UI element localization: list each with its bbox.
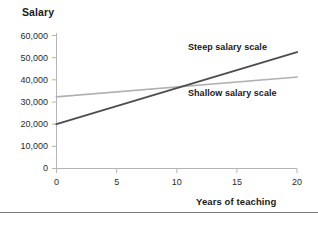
x-axis-title: Years of teaching — [196, 196, 276, 207]
series-annotation-shallow-salary-scale: Shallow salary scale — [188, 88, 277, 98]
y-axis-title: Salary — [22, 6, 54, 18]
y-axis-ticks — [52, 36, 56, 169]
y-tick-label-20000: 20,000 — [2, 119, 48, 129]
series-annotation-steep-salary-scale: Steep salary scale — [188, 42, 267, 52]
y-tick-label-60000: 60,000 — [2, 31, 48, 41]
x-tick-label-5: 5 — [102, 177, 132, 187]
x-tick-label-20: 20 — [282, 177, 312, 187]
x-tick-label-15: 15 — [222, 177, 252, 187]
salary-scale-chart-figure: Salary 60,000 50,000 40,000 30,000 20,00… — [0, 0, 318, 227]
y-tick-label-0: 0 — [2, 163, 48, 173]
y-tick-label-40000: 40,000 — [2, 75, 48, 85]
x-axis-ticks — [57, 169, 298, 174]
x-tick-label-0: 0 — [42, 177, 72, 187]
x-tick-label-10: 10 — [162, 177, 192, 187]
bottom-divider — [0, 212, 318, 213]
y-tick-label-50000: 50,000 — [2, 53, 48, 63]
y-tick-label-30000: 30,000 — [2, 97, 48, 107]
y-tick-label-10000: 10,000 — [2, 141, 48, 151]
